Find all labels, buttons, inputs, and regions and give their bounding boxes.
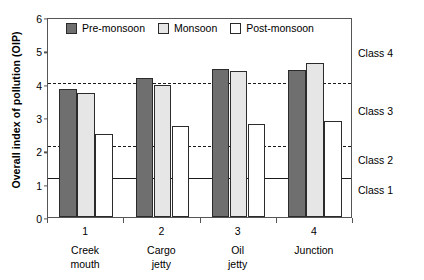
x-axis-name: mouth (71, 257, 100, 271)
x-tick-mark (123, 218, 124, 223)
bar-group (48, 19, 124, 217)
class-label: Class 1 (358, 184, 393, 196)
bar-pre-monsoon (288, 70, 306, 217)
bar-monsoon (306, 63, 324, 217)
bar-monsoon (154, 85, 172, 217)
bar-post-monsoon (248, 124, 266, 217)
x-tick-mark (47, 218, 48, 223)
x-axis-number: 1 (71, 224, 100, 238)
bar-post-monsoon (95, 134, 113, 217)
x-axis-number: 4 (294, 224, 333, 238)
bar-monsoon (77, 93, 95, 217)
y-axis-title: Overall index of pollution (OIP) (10, 10, 22, 210)
x-axis-number: 2 (147, 224, 176, 238)
x-axis-group-label: 3Oiljetty (228, 224, 247, 271)
class-label: Class 4 (358, 47, 393, 59)
legend-item: Post-monsoon (230, 22, 314, 34)
legend-swatch-icon (158, 23, 169, 34)
x-axis-name: Oil (228, 243, 247, 257)
x-axis-name: jetty (228, 257, 247, 271)
bar-monsoon (230, 71, 248, 217)
y-tick-mark (44, 18, 48, 19)
x-axis-group-label: 2Cargojetty (147, 224, 176, 271)
bar-group (277, 19, 353, 217)
plot-area: 0123456 (47, 18, 352, 218)
x-tick-mark (352, 218, 353, 223)
x-axis-name: Cargo (147, 243, 176, 257)
y-tick-mark (44, 85, 48, 86)
x-axis-name: Creek (71, 243, 100, 257)
bar-groups (48, 19, 351, 217)
y-tick-mark (44, 118, 48, 119)
x-tick-mark (276, 218, 277, 223)
bar-group (124, 19, 200, 217)
legend-label: Post-monsoon (246, 22, 314, 34)
x-axis-name: Junction (294, 243, 333, 257)
bar-chart: Overall index of pollution (OIP) 0123456… (0, 0, 424, 280)
x-tick-mark (200, 218, 201, 223)
bar-pre-monsoon (59, 89, 77, 217)
class-label: Class 2 (358, 154, 393, 166)
legend-item: Monsoon (158, 22, 217, 34)
y-tick-mark (44, 52, 48, 53)
bar-pre-monsoon (136, 78, 154, 217)
legend-swatch-icon (66, 23, 77, 34)
x-axis-number: 3 (228, 224, 247, 238)
bar-post-monsoon (324, 121, 342, 217)
x-axis-name: jetty (147, 257, 176, 271)
x-axis-group-label: 1Creekmouth (71, 224, 100, 271)
legend-label: Monsoon (174, 22, 217, 34)
chart-legend: Pre-monsoonMonsoonPost-monsoon (66, 22, 314, 34)
x-axis-group-label: 4Junction (294, 224, 333, 257)
bar-group (201, 19, 277, 217)
legend-item: Pre-monsoon (66, 22, 145, 34)
legend-label: Pre-monsoon (82, 22, 145, 34)
bar-post-monsoon (172, 126, 190, 217)
class-label: Class 3 (358, 105, 393, 117)
y-tick-mark (44, 152, 48, 153)
y-tick-mark (44, 185, 48, 186)
legend-swatch-icon (230, 23, 241, 34)
bar-pre-monsoon (212, 69, 230, 217)
